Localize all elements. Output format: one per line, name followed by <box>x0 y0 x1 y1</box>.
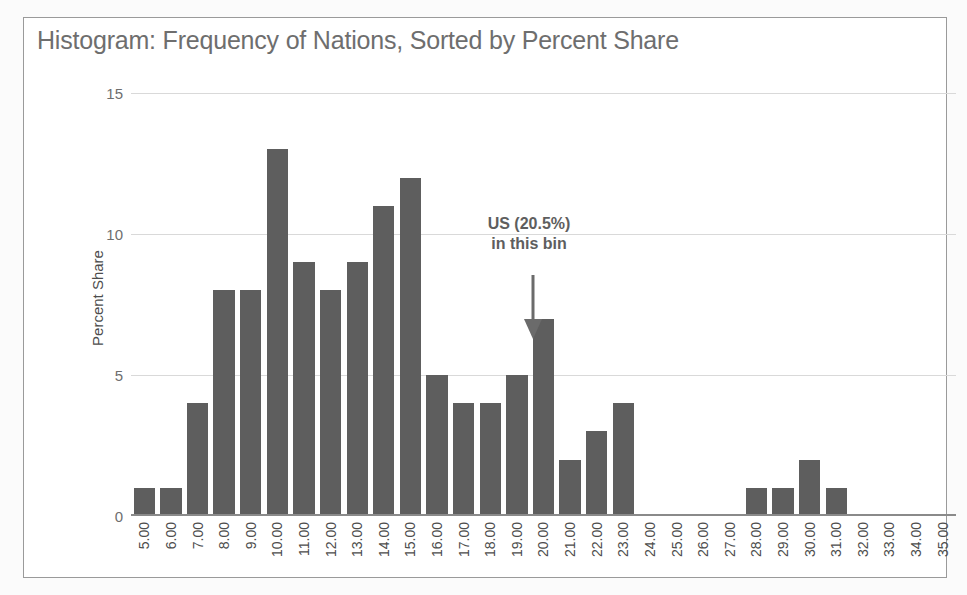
x-tick-label: 30.00 <box>802 522 818 557</box>
bar[interactable] <box>240 290 261 516</box>
bar-slot <box>237 93 264 516</box>
x-tick-slot: 30.00 <box>796 518 823 588</box>
x-tick-slot: 10.00 <box>264 518 291 588</box>
bar[interactable] <box>373 206 394 516</box>
bar[interactable] <box>426 375 447 516</box>
bar[interactable] <box>293 262 314 516</box>
bar[interactable] <box>187 403 208 516</box>
y-tick-label: 0 <box>83 508 123 525</box>
x-tick-label: 15.00 <box>402 522 418 557</box>
bar[interactable] <box>134 488 155 516</box>
chart-frame: Histogram: Frequency of Nations, Sorted … <box>23 17 947 578</box>
x-tick-label: 18.00 <box>482 522 498 557</box>
bar-slot <box>184 93 211 516</box>
x-tick-label: 35.00 <box>935 522 951 557</box>
x-tick-slot: 34.00 <box>903 518 930 588</box>
bar[interactable] <box>347 262 368 516</box>
bar-slot <box>743 93 770 516</box>
x-tick-label: 22.00 <box>589 522 605 557</box>
bar[interactable] <box>799 460 820 516</box>
x-tick-slot: 22.00 <box>583 518 610 588</box>
bar[interactable] <box>160 488 181 516</box>
bar[interactable] <box>453 403 474 516</box>
x-tick-slot: 25.00 <box>663 518 690 588</box>
x-tick-label: 8.00 <box>216 522 232 549</box>
x-tick-slot: 24.00 <box>637 518 664 588</box>
bar[interactable] <box>320 290 341 516</box>
x-tick-slot: 14.00 <box>371 518 398 588</box>
bar[interactable] <box>613 403 634 516</box>
bar[interactable] <box>772 488 793 516</box>
x-tick-label: 14.00 <box>376 522 392 557</box>
bar-slot <box>477 93 504 516</box>
bar[interactable] <box>746 488 767 516</box>
bar-slot <box>823 93 850 516</box>
bar-slot <box>637 93 664 516</box>
y-axis-tick-labels: 051015 <box>79 93 123 516</box>
screenshot-canvas: Histogram: Frequency of Nations, Sorted … <box>0 0 967 595</box>
x-tick-label: 31.00 <box>828 522 844 557</box>
bar-slot <box>317 93 344 516</box>
bar-slot <box>876 93 903 516</box>
bar-slot <box>796 93 823 516</box>
bar[interactable] <box>480 403 501 516</box>
bar-slot <box>397 93 424 516</box>
x-tick-slot: 20.00 <box>530 518 557 588</box>
x-tick-label: 19.00 <box>509 522 525 557</box>
x-tick-label: 10.00 <box>269 522 285 557</box>
x-tick-label: 24.00 <box>642 522 658 557</box>
x-tick-label: 25.00 <box>669 522 685 557</box>
bar-slot <box>424 93 451 516</box>
y-tick-label: 15 <box>83 85 123 102</box>
bar-slot <box>929 93 956 516</box>
bar-slot <box>158 93 185 516</box>
bar-slot <box>850 93 877 516</box>
bar-slot <box>663 93 690 516</box>
bar-slot <box>690 93 717 516</box>
bar-slot <box>371 93 398 516</box>
bar-slot <box>903 93 930 516</box>
x-axis-tick-labels: 5.006.007.008.009.0010.0011.0012.0013.00… <box>131 518 956 588</box>
x-tick-label: 27.00 <box>722 522 738 557</box>
x-tick-slot: 16.00 <box>424 518 451 588</box>
bar[interactable] <box>559 460 580 516</box>
x-tick-label: 20.00 <box>535 522 551 557</box>
x-tick-slot: 5.00 <box>131 518 158 588</box>
x-tick-slot: 32.00 <box>850 518 877 588</box>
x-tick-slot: 13.00 <box>344 518 371 588</box>
x-tick-slot: 29.00 <box>770 518 797 588</box>
x-tick-slot: 11.00 <box>291 518 318 588</box>
bar[interactable] <box>506 375 527 516</box>
bar-slot <box>770 93 797 516</box>
x-tick-slot: 27.00 <box>716 518 743 588</box>
bar-slot <box>291 93 318 516</box>
bar-slot <box>264 93 291 516</box>
bar-slot <box>131 93 158 516</box>
bar[interactable] <box>213 290 234 516</box>
x-tick-slot: 18.00 <box>477 518 504 588</box>
x-tick-label: 12.00 <box>323 522 339 557</box>
x-tick-label: 21.00 <box>562 522 578 557</box>
x-tick-slot: 8.00 <box>211 518 238 588</box>
bar[interactable] <box>267 149 288 516</box>
x-tick-label: 5.00 <box>136 522 152 549</box>
x-tick-slot: 9.00 <box>237 518 264 588</box>
x-tick-slot: 23.00 <box>610 518 637 588</box>
x-tick-label: 13.00 <box>349 522 365 557</box>
x-tick-slot: 6.00 <box>158 518 185 588</box>
y-tick-label: 10 <box>83 226 123 243</box>
bar-slot <box>450 93 477 516</box>
bar-slot <box>583 93 610 516</box>
x-tick-label: 28.00 <box>748 522 764 557</box>
bar[interactable] <box>400 178 421 516</box>
x-tick-slot: 35.00 <box>929 518 956 588</box>
bar[interactable] <box>533 319 554 516</box>
x-tick-label: 29.00 <box>775 522 791 557</box>
chart-title: Histogram: Frequency of Nations, Sorted … <box>37 26 679 55</box>
bar[interactable] <box>826 488 847 516</box>
x-axis-line <box>131 514 956 516</box>
bar[interactable] <box>586 431 607 516</box>
x-tick-slot: 21.00 <box>557 518 584 588</box>
x-tick-label: 26.00 <box>695 522 711 557</box>
bar-slot <box>716 93 743 516</box>
